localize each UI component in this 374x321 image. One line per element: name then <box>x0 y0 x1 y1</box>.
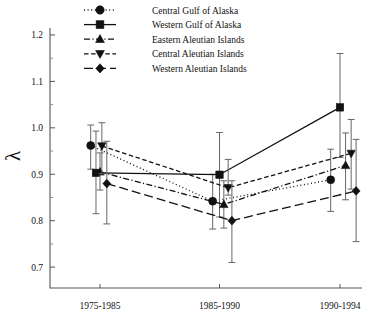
series-line <box>96 107 340 174</box>
series-central-aleutian-islands <box>98 119 356 195</box>
y-tick-label: 0.8 <box>31 216 43 226</box>
y-tick-label: 0.7 <box>31 263 43 273</box>
data-point <box>352 187 360 196</box>
legend-label: Eastern Aleutian Islands <box>152 35 245 45</box>
chart-series-layer <box>87 54 360 263</box>
legend-label: Western Aleutian Islands <box>152 64 247 74</box>
legend-item[interactable]: Central Aleutian Islands <box>84 49 244 59</box>
y-tick-label: 1.2 <box>31 30 43 40</box>
data-point <box>224 185 232 193</box>
data-point <box>87 141 95 149</box>
legend-label: Central Gulf of Alaska <box>152 6 239 16</box>
lambda-population-growth-chart: Central Gulf of AlaskaWestern Gulf of Al… <box>0 0 374 321</box>
chart-legend: Central Gulf of AlaskaWestern Gulf of Al… <box>84 6 247 74</box>
y-tick-label: 0.9 <box>31 170 43 180</box>
data-point <box>216 171 223 178</box>
x-category-label: 1985-1990 <box>199 301 240 311</box>
data-point <box>103 179 111 188</box>
y-axis-label: λ <box>1 150 25 161</box>
series-line <box>102 146 351 188</box>
legend-marker-triangle-down <box>96 51 105 59</box>
legend-item[interactable]: Central Gulf of Alaska <box>84 6 239 16</box>
x-category-label: 1990-1994 <box>319 301 360 311</box>
x-category-label: 1975-1985 <box>79 301 120 311</box>
series-western-gulf-of-alaska <box>92 54 343 217</box>
legend-item[interactable]: Eastern Aleutian Islands <box>84 35 245 45</box>
series-eastern-aleutian-islands <box>96 133 350 228</box>
y-tick-label: 1.1 <box>31 77 43 87</box>
legend-label: Western Gulf of Alaska <box>152 20 242 30</box>
data-point <box>327 176 335 184</box>
series-western-aleutian-islands <box>103 139 360 262</box>
data-point <box>341 161 349 169</box>
data-point <box>228 216 236 225</box>
legend-item[interactable]: Western Gulf of Alaska <box>84 20 242 30</box>
series-central-gulf-of-alaska <box>87 125 335 229</box>
legend-marker-diamond <box>96 64 104 73</box>
chart-figure: Central Gulf of AlaskaWestern Gulf of Al… <box>0 0 374 321</box>
data-point <box>336 104 343 111</box>
legend-label: Central Aleutian Islands <box>152 49 244 59</box>
legend-marker-circle <box>96 6 104 14</box>
legend-item[interactable]: Western Aleutian Islands <box>84 64 247 74</box>
legend-marker-triangle-up <box>96 35 105 43</box>
y-tick-label: 1.0 <box>31 123 43 133</box>
legend-marker-square <box>96 21 104 29</box>
